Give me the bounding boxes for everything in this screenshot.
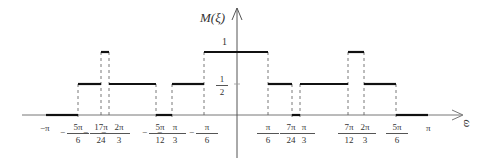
minus-sign: − bbox=[83, 127, 88, 137]
minus-sign: − bbox=[60, 127, 65, 137]
x-tick-label: π6 bbox=[196, 122, 218, 145]
minus-sign: − bbox=[189, 127, 194, 137]
x-tick-label: 2π3 bbox=[108, 122, 130, 145]
y-axis-label: M(ξ) bbox=[200, 11, 225, 24]
x-tick-label: π3 bbox=[164, 122, 186, 145]
x-tick-neg-pi: −π bbox=[40, 124, 50, 133]
x-tick-label: 2π3 bbox=[354, 122, 376, 145]
x-axis-label: ω bbox=[462, 120, 473, 128]
minus-sign: − bbox=[142, 127, 147, 137]
y-tick-half: 1 2 bbox=[216, 74, 228, 97]
y-tick-one: 1 bbox=[222, 37, 227, 47]
x-tick-label: π6 bbox=[257, 122, 279, 145]
minus-sign: − bbox=[157, 127, 162, 137]
x-tick-label: π3 bbox=[293, 122, 315, 145]
x-tick-label: 5π6 bbox=[386, 122, 408, 145]
x-tick-pi: π bbox=[426, 124, 431, 133]
minus-sign: − bbox=[101, 127, 106, 137]
